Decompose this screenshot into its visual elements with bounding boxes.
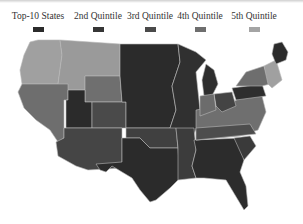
legend-label: Top-10 States [6, 10, 70, 22]
legend-item-q5: 5th Quintile [222, 10, 286, 32]
legend-item-q2: 2nd Quintile [68, 10, 128, 32]
legend-label: 4th Quintile [170, 10, 230, 22]
legend-label: 2nd Quintile [68, 10, 128, 22]
region-michigan [202, 64, 218, 96]
region-arkansas-louisiana [176, 128, 196, 180]
region-maine [272, 42, 288, 64]
region-wyoming [85, 76, 122, 102]
region-california-nevada [18, 84, 68, 142]
legend-item-top10: Top-10 States [6, 10, 70, 32]
us-choropleth-map [0, 30, 303, 224]
legend-item-q4: 4th Quintile [170, 10, 230, 32]
legend-label: 5th Quintile [222, 10, 286, 22]
region-great-plains-north [120, 44, 180, 128]
region-pacific-northwest [20, 40, 62, 84]
top-divider [0, 0, 303, 3]
region-colorado [92, 102, 126, 128]
